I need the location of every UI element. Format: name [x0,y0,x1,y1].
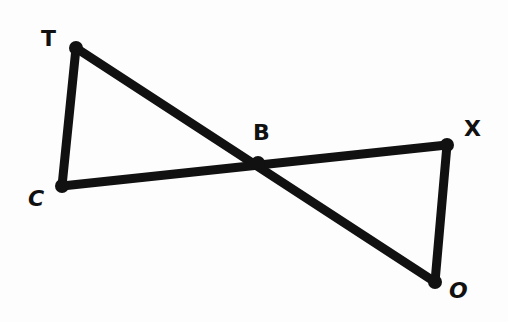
label-B: B [253,122,270,144]
vertex-C [55,179,69,193]
vertex-B [251,156,265,170]
label-X: X [464,118,481,140]
label-T: T [41,28,56,50]
segment-XO [435,145,447,282]
diagram-canvas: T C B X O [0,0,508,322]
label-O: O [449,280,468,302]
label-C: C [28,188,44,210]
vertex-X [440,138,454,152]
segment-TC [62,48,76,186]
vertex-T [69,41,83,55]
diagram-svg [0,0,508,322]
vertex-O [428,275,442,289]
